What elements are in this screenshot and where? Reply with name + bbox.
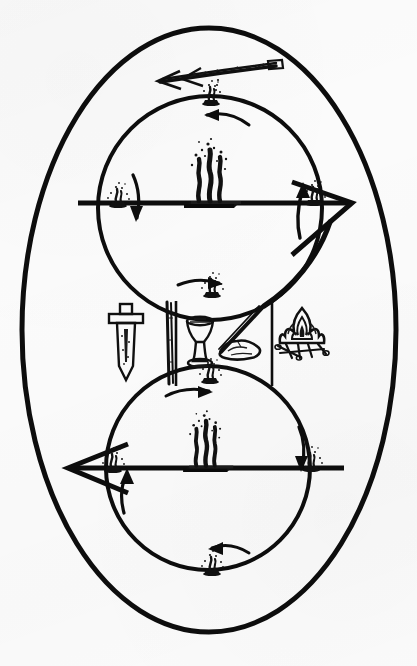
lower-top-arrow-icon — [166, 386, 213, 398]
lower-center-brazier-icon — [183, 410, 233, 472]
bonfire-icon — [275, 308, 329, 360]
double-headed-wand-icon — [158, 60, 283, 91]
upper-top-arrow-icon — [204, 109, 249, 125]
upper-center-brazier-icon — [184, 138, 241, 208]
outer-oval — [22, 28, 396, 632]
chalice-icon — [187, 317, 213, 367]
upper-right-arrow-icon — [296, 182, 310, 238]
stone-icon — [220, 340, 260, 359]
lower-bottom-censer-icon — [201, 550, 224, 576]
lower-bottom-arrow-icon — [208, 542, 249, 555]
diagram-canvas — [0, 0, 417, 666]
diagram-svg — [0, 0, 417, 666]
sword-icon — [109, 304, 143, 380]
upper-left-arrow-icon — [130, 175, 143, 222]
upper-top-censer-icon — [200, 80, 223, 106]
